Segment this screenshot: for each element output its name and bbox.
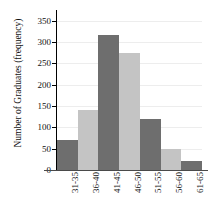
bar	[98, 35, 119, 170]
x-tick-label: 51-55	[154, 172, 163, 216]
y-tick-label: 50	[42, 144, 51, 153]
y-tick-label: 250	[38, 59, 52, 68]
bar	[161, 149, 182, 170]
bar	[181, 161, 202, 170]
y-tick-label: 200	[38, 80, 52, 89]
bar-series	[57, 10, 202, 170]
y-tick-label: 100	[38, 123, 52, 132]
x-tick-label: 36-40	[92, 172, 101, 216]
bar	[119, 53, 140, 170]
plot-area: 050100150200250300350	[57, 10, 202, 170]
x-tick-label: 61-65	[196, 172, 205, 216]
x-axis-line	[44, 170, 208, 171]
bar	[57, 140, 78, 170]
bar	[78, 110, 99, 170]
y-tick-label: 300	[38, 38, 52, 47]
x-tick-label: 56-60	[175, 172, 184, 216]
bar	[140, 119, 161, 170]
x-axis-tick-labels: 31-3536-4041-4546-5051-5556-6061-65	[57, 172, 202, 216]
x-tick-label: 31-35	[71, 172, 80, 216]
y-axis-title: Number of Graduates (frequency)	[13, 3, 23, 163]
y-tick-label: 150	[38, 102, 52, 111]
x-tick-label: 41-45	[113, 172, 122, 216]
y-tick-label: 350	[38, 16, 52, 25]
x-tick-label: 46-50	[134, 172, 143, 216]
bar-chart: Number of Graduates (frequency) 05010015…	[0, 0, 208, 216]
